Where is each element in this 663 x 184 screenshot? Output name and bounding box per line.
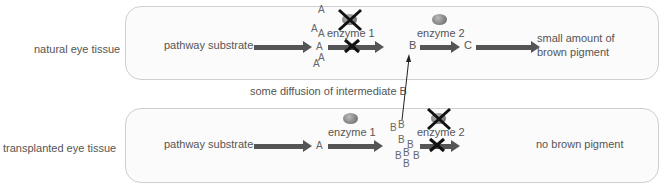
letter-A: A (318, 4, 325, 15)
letter-B: B (398, 134, 405, 145)
letter-B: B (390, 122, 397, 133)
transplanted-intermediate-A: A (316, 140, 323, 151)
natural-enzyme2-label: enzyme 2 (417, 27, 465, 39)
natural-arrow-C-to-pigment (476, 45, 532, 50)
diffusion-arrow-icon (395, 52, 415, 122)
transplanted-outcome: no brown pigment (536, 138, 623, 150)
blocked-cross-icon (428, 137, 446, 153)
natural-arrow-substrate-to-A (254, 45, 304, 50)
row-label-transplanted: transplanted eye tissue (3, 142, 116, 154)
letter-A: A (318, 28, 325, 39)
letter-B: B (403, 158, 410, 169)
diffusion-label: some diffusion of intermediate B (250, 85, 407, 97)
letter-B: B (398, 119, 405, 130)
natural-outcome-line1: small amount of (537, 32, 615, 44)
row-label-natural: natural eye tissue (34, 43, 120, 55)
transplanted-enzyme1-label: enzyme 1 (328, 126, 376, 138)
natural-substrate-label: pathway substrate (164, 39, 253, 51)
natural-product-C: C (464, 39, 472, 51)
letter-A: A (313, 58, 320, 69)
letter-B: B (403, 147, 410, 158)
enzyme1-blob-icon (343, 113, 358, 124)
transplanted-arrow-A-to-B (328, 144, 375, 149)
enzyme2-blob-icon (432, 14, 447, 25)
letter-B: B (395, 150, 402, 161)
transplanted-substrate-label: pathway substrate (164, 138, 253, 150)
natural-intermediate-A: A (316, 41, 323, 52)
natural-outcome-line2: brown pigment (537, 46, 609, 58)
natural-intermediate-B: B (409, 39, 416, 51)
letter-A: A (311, 23, 318, 34)
blocked-cross-icon (343, 38, 361, 54)
transplanted-arrow-substrate-to-A (254, 144, 304, 149)
natural-arrow-B-to-C (420, 45, 452, 50)
letter-B: B (413, 150, 420, 161)
